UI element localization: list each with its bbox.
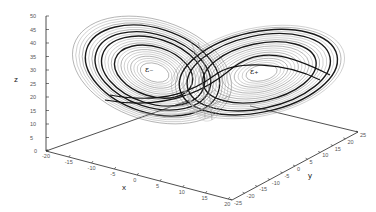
lorenz-attractor-plot: 51015202530354045500 -20-15-10-505101520… (0, 0, 376, 212)
z-tick-label: 25 (30, 81, 36, 87)
z-tick-label: 5 (30, 135, 33, 141)
y-tick-label: 20 (347, 139, 353, 145)
y-tick-label: 5 (310, 159, 313, 165)
z-tick-label: 40 (30, 40, 36, 46)
x-tick-label: -10 (88, 165, 96, 171)
fixed-point-minus-label: ε₋ (145, 65, 153, 74)
y-tick-label: -5 (284, 173, 289, 179)
z-tick-label: 0 (34, 148, 37, 154)
x-tick-label: 15 (201, 195, 207, 201)
y-tick-label: -15 (259, 186, 267, 192)
y-tick-label: 0 (297, 166, 300, 172)
x-tick-label: -15 (65, 159, 73, 165)
attractor-trajectory (59, 0, 354, 143)
z-tick-label: 10 (30, 121, 36, 127)
x-tick-label: -5 (110, 171, 115, 177)
x-tick-label: 5 (156, 183, 159, 189)
z-tick-label: 45 (30, 27, 36, 33)
z-tick-label: 35 (30, 54, 36, 60)
z-tick-label: 30 (30, 67, 36, 73)
x-tick-label: -20 (42, 153, 50, 159)
z-tick-label: 15 (30, 108, 36, 114)
y-axis-label: y (308, 171, 312, 180)
z-axis-label: z (14, 75, 18, 84)
y-tick-label: -25 (234, 200, 242, 206)
z-tick-label: 20 (30, 94, 36, 100)
y-tick-label: -10 (272, 180, 280, 186)
y-tick-label: 25 (360, 132, 366, 138)
x-tick-label: 20 (224, 201, 230, 207)
x-tick-label: 0 (133, 177, 136, 183)
y-tick-label: 10 (322, 152, 328, 158)
x-tick-label: 10 (179, 189, 185, 195)
y-tick-label: -20 (247, 193, 255, 199)
fixed-point-plus-label: ε₊ (250, 67, 258, 76)
x-axis-line (46, 151, 232, 200)
y-tick-label: 15 (335, 146, 341, 152)
z-tick-label: 50 (30, 13, 36, 19)
y-axis-ticks: -25-20-15-10-50510152025 (230, 131, 366, 206)
x-axis-label: x (122, 183, 126, 192)
